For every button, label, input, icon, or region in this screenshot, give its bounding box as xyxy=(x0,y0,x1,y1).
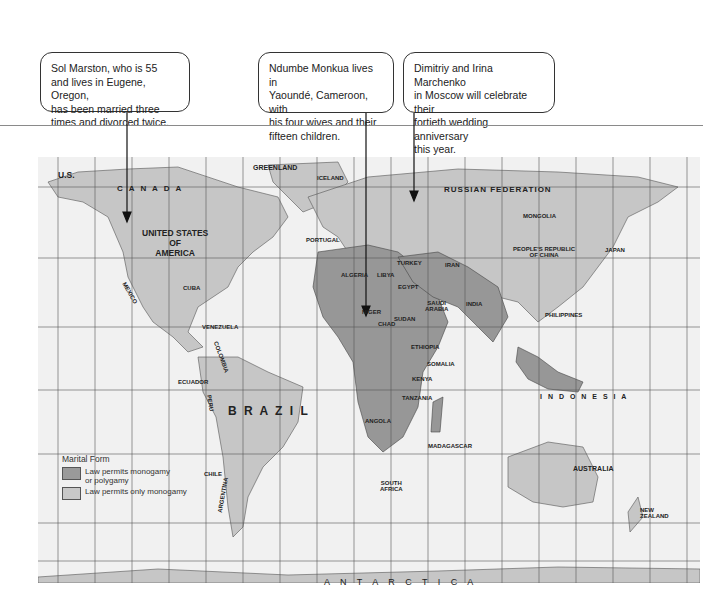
label-iran: IRAN xyxy=(445,262,460,268)
legend-label: Law permits monogamy or polygamy xyxy=(85,467,170,485)
legend-label: Law permits only monogamy xyxy=(85,487,187,496)
label-us-alaska: U.S. xyxy=(58,170,75,180)
label-niger: NIGER xyxy=(362,309,381,315)
label-libya: LIBYA xyxy=(377,272,394,278)
label-sudan: SUDAN xyxy=(394,316,415,322)
label-brazil: B R A Z I L xyxy=(228,404,310,418)
label-japan: JAPAN xyxy=(605,247,625,253)
label-ecuador: ECUADOR xyxy=(178,379,208,385)
label-mongolia: MONGOLIA xyxy=(523,213,556,219)
legend-title: Marital Form xyxy=(62,454,187,464)
label-somalia: SOMALIA xyxy=(427,361,455,367)
label-china: PEOPLE'S REPUBLIC OF CHINA xyxy=(513,246,575,258)
label-russia: RUSSIAN FEDERATION xyxy=(444,185,552,194)
label-antarctica: A N T A R C T I C A xyxy=(324,577,477,587)
label-kenya: KENYA xyxy=(412,376,432,382)
label-iceland: ICELAND xyxy=(317,175,344,181)
label-new-zealand: NEW ZEALAND xyxy=(640,507,669,519)
label-india: INDIA xyxy=(466,301,482,307)
label-egypt: EGYPT xyxy=(398,284,418,290)
label-portugal: PORTUGAL xyxy=(306,237,340,243)
callout-pointers xyxy=(0,0,703,604)
label-chile: CHILE xyxy=(204,471,222,477)
legend-swatch-light xyxy=(62,487,81,500)
label-indonesia: I N D O N E S I A xyxy=(540,393,628,400)
label-philippines: PHILIPPINES xyxy=(545,312,582,318)
legend-swatch-dark xyxy=(62,467,81,480)
label-chad: CHAD xyxy=(378,321,395,327)
legend-item-monogamy: Law permits only monogamy xyxy=(62,487,187,500)
label-ethiopia: ETHIOPIA xyxy=(411,344,439,350)
label-venezuela: VENEZUELA xyxy=(202,324,238,330)
label-usa: UNITED STATES OF AMERICA xyxy=(142,228,208,258)
label-tanzania: TANZANIA xyxy=(402,395,432,401)
map-legend: Marital Form Law permits monogamy or pol… xyxy=(62,454,187,502)
label-angola: ANGOLA xyxy=(365,418,391,424)
label-algeria: ALGERIA xyxy=(341,272,368,278)
label-turkey: TURKEY xyxy=(397,260,422,266)
legend-item-polygamy: Law permits monogamy or polygamy xyxy=(62,467,187,485)
label-greenland: GREENLAND xyxy=(253,164,297,171)
label-saudi-arabia: SAUDI ARABIA xyxy=(425,300,448,312)
label-south-africa: SOUTH AFRICA xyxy=(380,480,403,492)
label-australia: AUSTRALIA xyxy=(573,465,613,472)
label-canada: C A N A D A xyxy=(117,184,183,193)
label-cuba: CUBA xyxy=(183,285,200,291)
label-madagascar: MADAGASCAR xyxy=(428,443,472,449)
